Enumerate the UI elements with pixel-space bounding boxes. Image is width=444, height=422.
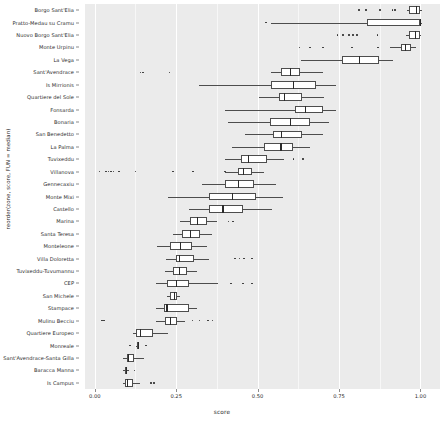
y-tick-mark (76, 308, 79, 309)
median-line (176, 280, 177, 288)
median-line (281, 131, 282, 139)
outlier-point (348, 34, 350, 36)
box (225, 180, 254, 188)
median-line (128, 354, 129, 362)
box (190, 217, 207, 225)
y-tick-label: Borgo Sant'Elia (35, 7, 75, 13)
x-axis-tick-labels: 0.000.250.500.751.00 (85, 389, 440, 405)
outlier-point (192, 171, 194, 173)
y-tick-mark (76, 72, 79, 73)
median-line (290, 68, 291, 76)
median-line (138, 342, 139, 350)
median-line (222, 205, 223, 213)
median-line (170, 317, 171, 325)
outlier-point (207, 320, 209, 322)
y-tick-mark (76, 109, 79, 110)
y-tick-label: Sant'Avendrace-Santa Gilla (3, 355, 74, 361)
median-line (179, 255, 180, 263)
x-tick-label: 1.00 (415, 393, 427, 399)
box (264, 143, 293, 151)
outlier-point (251, 283, 253, 285)
outlier-point (228, 221, 230, 223)
box (342, 56, 378, 64)
y-tick-label: Fonsarda (50, 107, 74, 113)
y-tick-label: La Palma (51, 144, 74, 150)
x-axis-title: score (0, 409, 444, 415)
outlier-point (192, 320, 194, 322)
median-line (359, 56, 360, 64)
box (167, 280, 189, 288)
box (279, 93, 302, 101)
boxplot-figure: reorder(zone, score, FUN = median) score… (0, 0, 444, 422)
median-line (284, 93, 285, 101)
median-line (416, 6, 417, 14)
outlier-point (377, 34, 379, 36)
box (401, 44, 411, 52)
y-tick-mark (76, 208, 79, 209)
y-tick-mark (76, 10, 79, 11)
median-line (238, 180, 239, 188)
outlier-point (342, 34, 344, 36)
y-tick-label: Monte Mixi (46, 194, 74, 200)
median-line (190, 230, 191, 238)
outlier-point (140, 72, 142, 74)
box (170, 242, 192, 250)
box (241, 155, 267, 163)
outlier-point (299, 47, 301, 49)
y-tick-mark (76, 382, 79, 383)
y-tick-mark (76, 320, 79, 321)
outlier-point (293, 158, 295, 160)
box (165, 317, 177, 325)
median-line (174, 292, 175, 300)
y-tick-label: Villanova (50, 169, 74, 175)
y-tick-label: San Michele (43, 293, 74, 299)
median-line (248, 155, 249, 163)
outlier-point (251, 258, 253, 260)
y-tick-mark (76, 35, 79, 36)
y-tick-mark (76, 283, 79, 284)
y-tick-label: Sant'Avendrace (33, 69, 74, 75)
y-tick-mark (76, 196, 79, 197)
outlier-point (394, 9, 396, 11)
x-tick-label: 0.25 (170, 393, 182, 399)
gridline-major (420, 4, 421, 389)
y-tick-label: CEP (64, 280, 74, 286)
y-tick-mark (76, 47, 79, 48)
y-tick-label: Monte Urpinu (39, 44, 74, 50)
y-tick-label: Mulinu Becciu (38, 318, 74, 324)
outlier-point (232, 221, 234, 223)
y-tick-mark (76, 246, 79, 247)
x-tick-mark (176, 389, 177, 392)
y-tick-mark (76, 97, 79, 98)
box (238, 168, 252, 176)
outlier-point (234, 258, 236, 260)
y-tick-mark (76, 357, 79, 358)
outlier-point (212, 320, 214, 322)
y-tick-label: Monreale (50, 343, 74, 349)
y-tick-label: Santa Teresa (41, 231, 74, 237)
y-tick-label: Monteleone (44, 243, 74, 249)
median-line (420, 19, 421, 27)
plot-panel (85, 4, 440, 389)
median-line (166, 304, 167, 312)
y-tick-mark (76, 134, 79, 135)
y-tick-label: Tuvixeddu-Tuvumannu (16, 268, 74, 274)
x-tick-mark (258, 389, 259, 392)
y-tick-label: Tuvixeddu (48, 156, 74, 162)
box (273, 131, 301, 139)
outlier-point (230, 283, 232, 285)
outlier-point (169, 72, 171, 74)
x-tick-mark (420, 389, 421, 392)
median-line (415, 31, 416, 39)
outlier-point (142, 72, 144, 74)
y-tick-mark (76, 258, 79, 259)
median-line (140, 329, 141, 337)
outlier-point (309, 47, 311, 49)
outlier-point (105, 171, 107, 173)
x-tick-label: 0.50 (252, 393, 264, 399)
y-tick-mark (76, 171, 79, 172)
y-tick-mark (76, 159, 79, 160)
outlier-point (103, 320, 105, 322)
box (164, 304, 189, 312)
y-tick-label: Marina (56, 218, 74, 224)
